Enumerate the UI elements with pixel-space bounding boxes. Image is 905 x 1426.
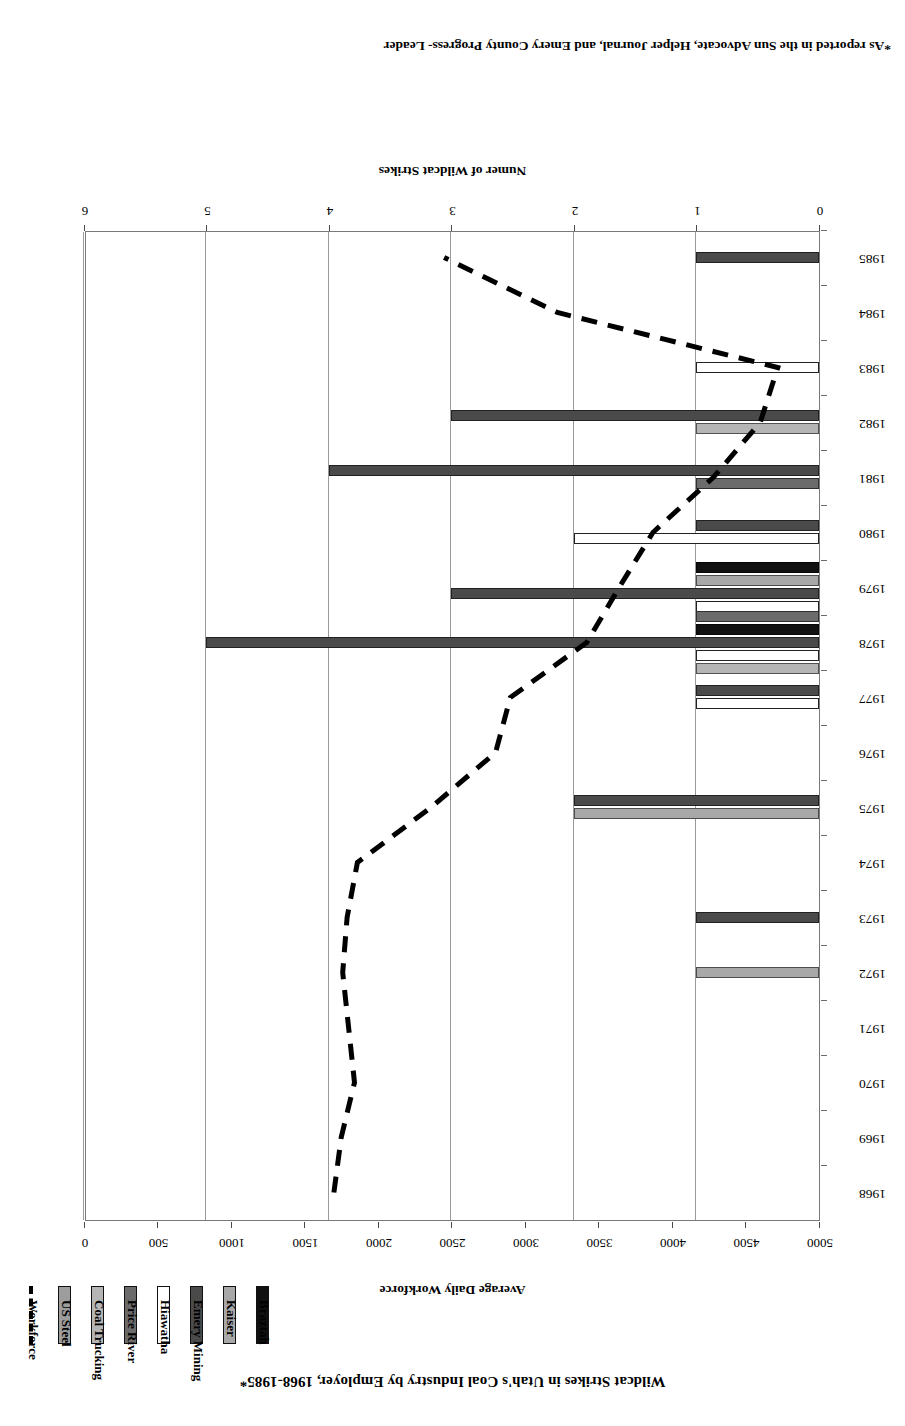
year-label: 1979 xyxy=(830,582,886,598)
bar-segment xyxy=(452,411,820,422)
bar-segment xyxy=(329,466,819,477)
bar-segment xyxy=(452,589,820,600)
legend-item-coal-trucking[interactable]: Coal Trucking xyxy=(82,1286,112,1418)
workforce-tick-label: 1000 xyxy=(202,1235,262,1251)
workforce-tick-mark xyxy=(84,1222,85,1228)
bar-segment xyxy=(697,663,820,674)
gridline xyxy=(83,232,84,1220)
year-tick-mark xyxy=(821,670,827,671)
year-label: 1969 xyxy=(830,1132,886,1148)
bar-segment xyxy=(697,611,820,622)
legend-label: Coal Trucking xyxy=(84,1300,106,1418)
legend-item-price-river[interactable]: Price River xyxy=(115,1286,145,1418)
legend-label: Kaiser xyxy=(216,1300,238,1418)
year-tick-mark xyxy=(821,450,827,451)
year-label: 1977 xyxy=(830,692,886,708)
workforce-tick-label: 4000 xyxy=(643,1235,703,1251)
workforce-tick-mark xyxy=(525,1222,526,1228)
workforce-tick-mark xyxy=(452,1222,453,1228)
workforce-tick-label: 3500 xyxy=(570,1235,630,1251)
strikes-tick-label: 5 xyxy=(188,203,228,219)
year-label: 1974 xyxy=(830,857,886,873)
workforce-tick-mark xyxy=(158,1222,159,1228)
year-tick-mark xyxy=(821,890,827,891)
legend-label: Price River xyxy=(117,1300,139,1418)
figure-rotator: Wildcat Strikes in Utah's Coal Industry … xyxy=(0,0,905,1426)
workforce-tick-mark xyxy=(305,1222,306,1228)
legend-label: Workforce xyxy=(18,1300,40,1418)
year-label: 1985 xyxy=(830,252,886,268)
bar-segment xyxy=(697,479,820,490)
year-tick-mark xyxy=(821,780,827,781)
legend-label: Braztah xyxy=(249,1300,271,1418)
workforce-tick-label: 2000 xyxy=(349,1235,409,1251)
year-tick-mark xyxy=(821,1165,827,1166)
bar-segment xyxy=(574,534,819,545)
strikes-tick-mark xyxy=(697,225,698,231)
bar-segment xyxy=(697,686,820,697)
year-tick-mark xyxy=(821,1055,827,1056)
workforce-tick-mark xyxy=(378,1222,379,1228)
bar-segment xyxy=(697,624,820,635)
bar-segment xyxy=(697,576,820,587)
year-label: 1980 xyxy=(830,527,886,543)
workforce-tick-label: 5000 xyxy=(790,1235,850,1251)
year-tick-mark xyxy=(821,945,827,946)
strikes-tick-label: 2 xyxy=(555,203,595,219)
year-tick-mark xyxy=(821,395,827,396)
legend-label: US Steel xyxy=(51,1300,73,1418)
year-tick-mark xyxy=(821,1000,827,1001)
legend-item-hiawatha[interactable]: Hiawatha xyxy=(148,1286,178,1418)
legend-item-us-steel[interactable]: US Steel xyxy=(49,1286,79,1418)
year-label: 1983 xyxy=(830,362,886,378)
workforce-tick-label: 500 xyxy=(129,1235,189,1251)
bar-segment xyxy=(697,362,820,373)
gridline xyxy=(328,232,329,1220)
workforce-tick-label: 0 xyxy=(55,1235,115,1251)
bar-segment xyxy=(697,424,820,435)
bar-segment xyxy=(574,809,819,820)
legend-item-emery-mining[interactable]: Emery Mining xyxy=(181,1286,211,1418)
bar-segment xyxy=(697,252,820,263)
strikes-tick-mark xyxy=(207,225,208,231)
strikes-tick-mark xyxy=(329,225,330,231)
workforce-tick-mark xyxy=(599,1222,600,1228)
year-tick-mark xyxy=(821,560,827,561)
year-label: 1968 xyxy=(830,1187,886,1203)
bar-segment xyxy=(574,796,819,807)
chart-figure: Wildcat Strikes in Utah's Coal Industry … xyxy=(0,0,905,1426)
workforce-tick-label: 3000 xyxy=(496,1235,556,1251)
strikes-tick-mark xyxy=(574,225,575,231)
legend-item-workforce[interactable]: Workforce xyxy=(16,1286,46,1418)
legend-item-kaiser[interactable]: Kaiser xyxy=(214,1286,244,1418)
plot-area xyxy=(85,231,820,1221)
workforce-tick-label: 2500 xyxy=(423,1235,483,1251)
bar-segment xyxy=(697,563,820,574)
year-label: 1971 xyxy=(830,1022,886,1038)
year-label: 1978 xyxy=(830,637,886,653)
year-label: 1984 xyxy=(830,307,886,323)
bar-segment xyxy=(697,912,820,923)
legend-item-braztah[interactable]: Braztah xyxy=(247,1286,277,1418)
strikes-tick-label: 1 xyxy=(678,203,718,219)
year-label: 1976 xyxy=(830,747,886,763)
year-label: 1975 xyxy=(830,802,886,818)
strikes-axis-title: Numer of Wildcat Strikes xyxy=(0,163,905,179)
workforce-tick-label: 4500 xyxy=(717,1235,777,1251)
workforce-axis-title: Average Daily Workforce xyxy=(0,1282,905,1298)
year-label: 1982 xyxy=(830,417,886,433)
strikes-tick-label: 4 xyxy=(310,203,350,219)
gridline xyxy=(573,232,574,1220)
bar-segment xyxy=(697,699,820,710)
year-label: 1970 xyxy=(830,1077,886,1093)
gridline xyxy=(206,232,207,1220)
chart-footnote: *As reported in the Sun Advocate, Helper… xyxy=(11,38,891,54)
strikes-tick-mark xyxy=(819,225,820,231)
bar-segment xyxy=(697,521,820,532)
gridline xyxy=(451,232,452,1220)
workforce-line-layer xyxy=(84,230,819,1220)
year-tick-mark xyxy=(821,615,827,616)
year-label: 1973 xyxy=(830,912,886,928)
chart-legend: BraztahKaiserEmery MiningHiawathaPrice R… xyxy=(5,1286,277,1418)
bar-segment xyxy=(697,650,820,661)
